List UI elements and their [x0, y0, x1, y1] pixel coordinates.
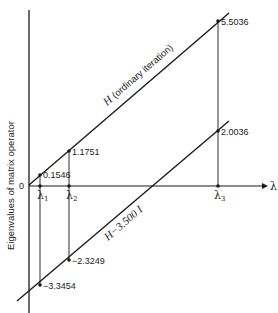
h-line-label: H(ordinary iteration) — [100, 41, 175, 108]
value-h-lambda2: 1.1751 — [72, 147, 100, 157]
point-shifted-lambda2 — [67, 258, 71, 262]
shifted-h-line — [17, 121, 229, 301]
value-shifted-lambda3: 2.0036 — [221, 127, 249, 137]
x-axis-arrow-icon — [262, 183, 268, 189]
point-axis-lambda2 — [67, 184, 71, 188]
value-shifted-lambda1: −3.3454 — [43, 281, 76, 291]
h-line — [29, 13, 229, 185]
lambda2-label: λ2 — [66, 189, 77, 203]
x-axis-label: λ — [270, 180, 277, 193]
eigenvalue-shift-diagram: λ Eigenvalues of matrix operator 0 0.154… — [0, 0, 278, 313]
point-shifted-lambda1 — [38, 283, 42, 287]
value-h-lambda1: 0.1546 — [43, 170, 71, 180]
point-axis-lambda3 — [216, 184, 220, 188]
lambda1-label: λ1 — [37, 189, 48, 203]
point-h-lambda1 — [38, 173, 42, 177]
point-axis-lambda1 — [38, 184, 42, 188]
value-shifted-lambda2: −2.3249 — [72, 256, 105, 266]
y-axis-label: Eigenvalues of matrix operator — [5, 121, 16, 250]
shifted-h-line-label: H−3.500 I — [101, 202, 146, 243]
point-h-lambda2 — [67, 149, 71, 153]
point-shifted-lambda3 — [216, 129, 220, 133]
value-h-lambda3: 5.5036 — [221, 17, 249, 27]
lambda3-label: λ3 — [214, 189, 225, 203]
origin-label: 0 — [19, 181, 24, 191]
point-h-lambda3 — [216, 19, 220, 23]
